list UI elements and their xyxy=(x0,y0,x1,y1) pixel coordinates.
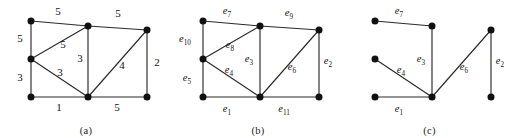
edge-label-V4-V6: 5 xyxy=(115,7,121,19)
edge-label-V6-V7: 2 xyxy=(154,56,160,68)
edge-label-V3-V5: 1 xyxy=(56,101,62,113)
edge-V2-V5 xyxy=(31,59,88,97)
edge-label-V3-V5: e1 xyxy=(223,103,232,117)
vertex-v5 xyxy=(257,94,264,101)
edge-label-V4-V5: e3 xyxy=(245,53,254,67)
edge-label-V1-V4: e7 xyxy=(395,5,404,19)
edge-label-V4-V5: e3 xyxy=(417,53,426,67)
vertex-v5 xyxy=(429,94,436,101)
vertex-v3 xyxy=(372,94,379,101)
vertex-v4 xyxy=(257,23,264,30)
vertex-v7 xyxy=(144,94,151,101)
panel-c: e7e3e4e1e6e2 (c) xyxy=(344,0,515,138)
panel-a: 55553331542 (a) xyxy=(0,0,172,138)
panel-b-caption: (b) xyxy=(172,125,344,136)
edge-V5-V6 xyxy=(88,30,147,97)
edge-label-V2-V3: 3 xyxy=(17,71,23,83)
edge-label-V1-V4: e7 xyxy=(223,5,232,19)
graph-figure: 55553331542 (a) e7e9e10e8e3e5e4e1e11e6e2… xyxy=(0,0,515,138)
panel-a-canvas: 55553331542 xyxy=(0,0,172,138)
vertex-v1 xyxy=(200,18,207,25)
edge-V1-V4 xyxy=(31,21,88,26)
edge-label-V2-V4: 5 xyxy=(60,38,66,50)
edge-label-V4-V6: e9 xyxy=(285,7,294,21)
edge-label-V6-V7: e2 xyxy=(324,55,333,69)
edge-label-V1-V2: e10 xyxy=(179,33,191,47)
vertex-v6 xyxy=(144,27,151,34)
edge-label-V6-V7: e2 xyxy=(496,55,505,69)
edge-V4-V6 xyxy=(260,26,319,30)
edge-label-V2-V3: e5 xyxy=(183,72,192,86)
panel-a-caption: (a) xyxy=(0,125,172,136)
edge-V1-V4 xyxy=(203,21,260,26)
vertex-v7 xyxy=(316,94,323,101)
edge-label-V1-V2: 5 xyxy=(17,32,23,44)
edge-label-V2-V5: 3 xyxy=(57,66,63,78)
vertex-v1 xyxy=(28,18,35,25)
edge-V1-V4 xyxy=(375,21,432,26)
vertex-v6 xyxy=(488,27,495,34)
edge-label-V5-V6: e6 xyxy=(460,61,469,75)
panel-b: e7e9e10e8e3e5e4e1e11e6e2 (b) xyxy=(172,0,344,138)
edge-V2-V4 xyxy=(203,26,260,59)
edge-label-V5-V6: e6 xyxy=(288,61,297,75)
edge-label-V5-V7: 5 xyxy=(114,101,120,113)
edge-V4-V6 xyxy=(88,26,147,30)
vertex-v2 xyxy=(372,56,379,63)
edge-label-V5-V6: 4 xyxy=(119,59,125,71)
edge-label-V4-V5: 3 xyxy=(77,52,83,64)
vertex-v2 xyxy=(28,56,35,63)
vertex-v4 xyxy=(85,23,92,30)
edge-label-V5-V7: e11 xyxy=(278,103,290,117)
edge-label-V2-V5: e4 xyxy=(225,64,234,78)
panel-b-canvas: e7e9e10e8e3e5e4e1e11e6e2 xyxy=(172,0,344,138)
vertex-v2 xyxy=(200,56,207,63)
edge-label-V2-V5: e4 xyxy=(397,64,406,78)
vertex-v7 xyxy=(488,94,495,101)
edge-label-V1-V4: 5 xyxy=(55,5,61,17)
vertex-v6 xyxy=(316,27,323,34)
vertex-v3 xyxy=(28,94,35,101)
vertex-v3 xyxy=(200,94,207,101)
panel-c-caption: (c) xyxy=(344,125,515,136)
vertex-v1 xyxy=(372,18,379,25)
vertex-v5 xyxy=(85,94,92,101)
edge-label-V3-V5: e1 xyxy=(395,103,404,117)
panel-c-canvas: e7e3e4e1e6e2 xyxy=(344,0,515,138)
vertex-v4 xyxy=(429,23,436,30)
